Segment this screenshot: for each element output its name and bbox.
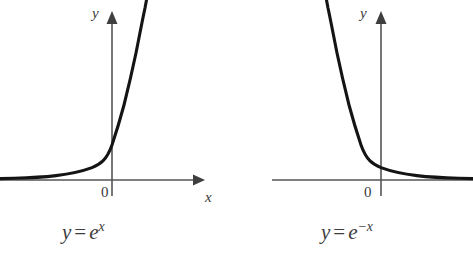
exponential-functions-figure: y x 0 y=ex y 0 y=e−x	[0, 0, 473, 259]
curve-exp-decay	[327, 0, 473, 179]
curve-exp-growth	[0, 0, 147, 179]
caption-right: y=e−x	[321, 222, 373, 243]
y-axis-arrow-icon-right	[376, 11, 387, 24]
caption-right-base: e	[348, 220, 357, 244]
caption-left: y=ex	[62, 222, 105, 243]
panel-exponential-growth: y x 0 y=ex	[0, 0, 240, 259]
x-axis-label-left: x	[205, 190, 212, 205]
panel-exponential-decay: y 0 y=e−x	[233, 0, 473, 259]
plot-left	[0, 0, 240, 259]
caption-left-equals: =	[71, 220, 89, 244]
caption-left-base: e	[89, 220, 98, 244]
origin-label-right: 0	[364, 185, 372, 200]
caption-left-exponent: x	[99, 219, 105, 234]
y-axis-arrow-icon-left	[107, 11, 118, 24]
y-axis-label-left: y	[92, 6, 99, 21]
y-axis-label-right: y	[360, 6, 367, 21]
x-axis-arrow-icon-left	[193, 175, 205, 186]
caption-left-variable: y	[62, 220, 71, 244]
caption-right-variable: y	[321, 220, 330, 244]
origin-label-left: 0	[101, 185, 109, 200]
caption-right-equals: =	[330, 220, 348, 244]
caption-right-exponent: −x	[358, 219, 374, 234]
